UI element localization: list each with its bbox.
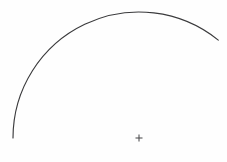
arc-figure-svg [0,0,227,162]
center-cross-marker [136,135,143,142]
figure-canvas [0,0,227,162]
arc-curve [13,12,218,138]
